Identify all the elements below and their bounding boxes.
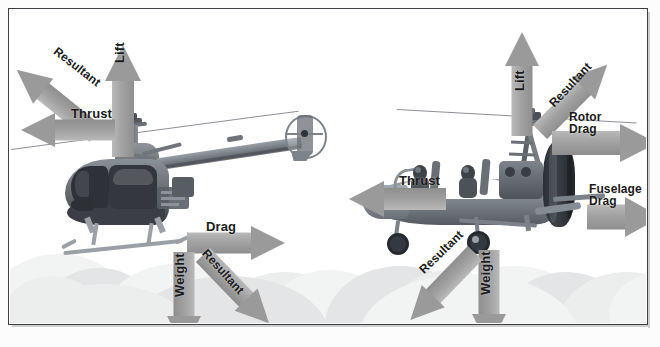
label-lift-gyroplane: Lift xyxy=(513,70,526,91)
frame-shadow-right xyxy=(648,12,650,328)
diagram-frame: Lift Resultant Thrust Drag Weight xyxy=(8,8,648,325)
label-fuselage-drag-gyroplane: Fuselage Drag xyxy=(589,183,642,207)
label-weight-helicopter: Weight xyxy=(173,253,186,297)
label-thrust-gyroplane: Thrust xyxy=(399,174,440,187)
label-lift-helicopter: Lift xyxy=(113,42,126,63)
label-rotor-drag-gyroplane: Rotor Drag xyxy=(569,111,602,135)
figure-canvas: Lift Resultant Thrust Drag Weight xyxy=(0,0,660,347)
label-thrust-helicopter: Thrust xyxy=(71,107,112,120)
landing-skid xyxy=(63,239,183,256)
frame-shadow-bottom xyxy=(12,325,650,327)
label-drag-helicopter: Drag xyxy=(206,220,236,233)
